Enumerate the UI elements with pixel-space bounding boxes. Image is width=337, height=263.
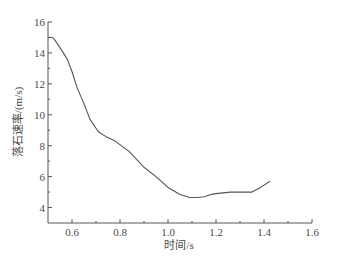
y-tick-label: 12 [34,78,45,90]
line-chart: 0.60.81.01.21.41.6 46810121416 时间/s 落石速率… [0,0,337,263]
y-axis-label: 落石速率/(m/s) [11,87,25,158]
y-tick-label: 8 [40,140,46,152]
x-ticks: 0.60.81.01.21.41.6 [65,219,319,238]
y-tick-label: 16 [34,16,46,28]
series-group [48,38,270,198]
x-tick-label: 1.2 [209,226,223,238]
x-axis-label: 时间/s [164,239,193,251]
x-tick-label: 0.8 [113,226,127,238]
axes [48,22,312,223]
y-tick-label: 6 [40,171,46,183]
x-tick-label: 1.6 [305,226,319,238]
y-tick-label: 14 [34,47,46,59]
x-tick-label: 1.4 [257,226,271,238]
y-tick-label: 10 [34,109,46,121]
y-ticks: 46810121416 [34,16,52,214]
y-tick-label: 4 [40,202,46,214]
velocity-line [48,38,270,198]
x-tick-label: 0.6 [65,226,79,238]
x-tick-label: 1.0 [161,226,175,238]
